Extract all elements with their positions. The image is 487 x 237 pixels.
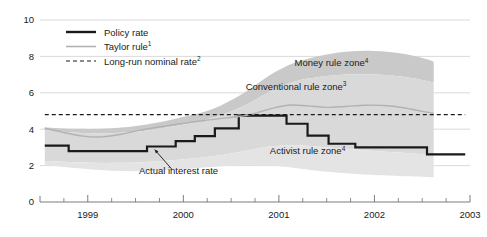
x-tick-label-2000: 2000	[173, 209, 194, 220]
x-tick-label-2001: 2001	[268, 209, 289, 220]
legend-label-long-run-nominal-rate: Long-run nominal rate2	[104, 55, 201, 67]
x-tick-label-2003: 2003	[459, 209, 480, 220]
band-label-activist-rule-zone: Activist rule zone4	[270, 145, 346, 157]
y-tick-label-0: 0	[29, 196, 34, 207]
chart-container: 024681019992000200120022003 Money rule z…	[0, 0, 487, 237]
y-tick-label-4: 4	[29, 124, 34, 135]
x-tick-label-2002: 2002	[364, 209, 385, 220]
annotation-actual-interest-rate: Actual interest rate	[139, 165, 218, 176]
band-label-conventional-rule-zone: Conventional rule zone3	[246, 80, 347, 92]
interest-rate-chart: 024681019992000200120022003 Money rule z…	[0, 0, 487, 237]
y-tick-label-6: 6	[29, 87, 34, 98]
y-tick-label-8: 8	[29, 51, 34, 62]
x-tick-label-1999: 1999	[77, 209, 98, 220]
y-tick-label-10: 10	[23, 14, 34, 25]
y-tick-label-2: 2	[29, 160, 34, 171]
band-label-money-rule-zone: Money rule zone4	[295, 57, 369, 69]
legend-label-policy-rate: Policy rate	[104, 27, 148, 38]
legend-label-taylor-rule: Taylor rule1	[104, 40, 152, 52]
